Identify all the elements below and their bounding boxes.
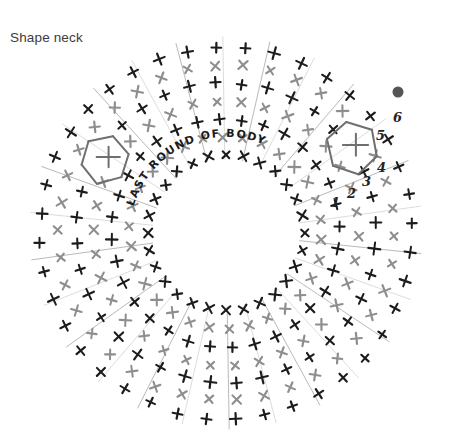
crochet-chart: 123456 LAST ROUND OF BODY [0,0,452,446]
stitch-number-2: 2 [346,186,356,201]
stitch-number-5: 5 [376,128,385,143]
stitch-number-3: 3 [362,174,371,189]
chain-loop-left [82,136,129,184]
stitch-round-0 [144,151,309,314]
last-round-of-body-label: LAST ROUND OF BODY [124,127,268,208]
stitch-round-6 [34,43,416,425]
stitch-number-1: 1 [331,195,340,210]
start-dot-icon [393,87,404,98]
stitch-round-5 [54,61,398,404]
stitch-rounds-layer [31,37,421,429]
stitch-round-4 [71,77,381,388]
stitch-round-2 [106,114,345,352]
stitch-number-4: 4 [377,160,386,175]
stitch-number-6: 6 [393,110,402,125]
